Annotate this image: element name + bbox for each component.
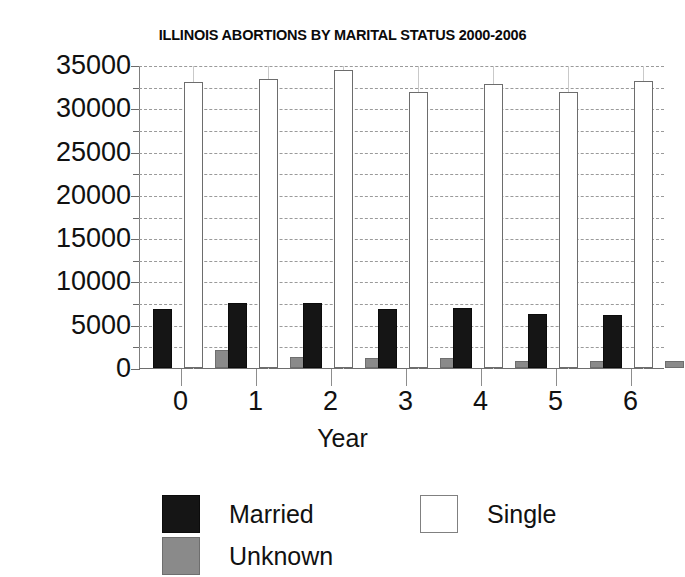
bar-married (153, 309, 172, 368)
y-axis: 05000100001500020000250003000035000 (0, 0, 131, 577)
bar-single (259, 79, 278, 368)
gridline (139, 326, 664, 327)
x-axis-tick-label: 2 (311, 388, 351, 415)
bar-married (603, 315, 622, 368)
x-axis-tick (481, 369, 482, 386)
x-axis-tick (406, 369, 407, 386)
legend-swatch-married (162, 495, 200, 533)
y-axis-tick-label: 30000 (0, 95, 131, 122)
plot-area (139, 66, 664, 369)
gridline (139, 153, 664, 154)
gridline (139, 304, 664, 305)
bar-chart: ILLINOIS ABORTIONS BY MARITAL STATUS 200… (0, 0, 685, 577)
bar-married (378, 309, 397, 368)
bar-married (528, 314, 547, 368)
legend-swatch-single (420, 495, 458, 533)
gridline (139, 196, 664, 197)
y-axis-tick-label: 0 (0, 355, 131, 382)
legend-item-married: Married (162, 495, 314, 533)
x-axis-tick (256, 369, 257, 386)
bar-single (409, 92, 428, 368)
gridline (139, 282, 664, 283)
y-axis-tick-label: 20000 (0, 182, 131, 209)
legend-label-married: Married (229, 502, 314, 527)
x-axis-tick (331, 369, 332, 386)
gridline (139, 66, 664, 67)
bar-single (184, 82, 203, 368)
x-axis-tick (181, 369, 182, 386)
y-axis-tick-label: 25000 (0, 139, 131, 166)
x-axis-tick-label: 3 (386, 388, 426, 415)
chart-legend: Married Unknown Single (162, 495, 632, 575)
x-axis-tick-label: 1 (236, 388, 276, 415)
bar-single (559, 92, 578, 368)
legend-label-single: Single (487, 502, 557, 527)
bar-married (303, 303, 322, 368)
gridline (139, 88, 664, 89)
bar-single (634, 81, 653, 368)
x-axis-tick (556, 369, 557, 386)
x-axis-tick-label: 6 (611, 388, 651, 415)
gridline (139, 131, 664, 132)
bar-married (453, 308, 472, 368)
gridline (139, 218, 664, 219)
gridline (139, 174, 664, 175)
bar-single (334, 70, 353, 368)
legend-item-unknown: Unknown (162, 537, 333, 575)
x-axis-tick-label: 4 (461, 388, 501, 415)
legend-swatch-unknown (162, 537, 200, 575)
bar-married (228, 303, 247, 368)
y-axis-tick-label: 15000 (0, 225, 131, 252)
y-axis-tick-label: 10000 (0, 268, 131, 295)
y-axis-tick-major (131, 369, 140, 370)
gridline (139, 347, 664, 348)
x-axis-line (139, 368, 664, 369)
x-axis-title: Year (0, 424, 685, 453)
gridline (139, 109, 664, 110)
gridline (139, 239, 664, 240)
y-axis-tick-label: 35000 (0, 52, 131, 79)
gridline (139, 261, 664, 262)
x-axis-tick-label: 0 (161, 388, 201, 415)
legend-item-single: Single (420, 495, 557, 533)
x-axis-tick-label: 5 (536, 388, 576, 415)
y-axis-tick-label: 5000 (0, 312, 131, 339)
bar-unknown (665, 361, 684, 368)
legend-label-unknown: Unknown (229, 544, 333, 569)
bar-single (484, 84, 503, 368)
x-axis-tick (631, 369, 632, 386)
